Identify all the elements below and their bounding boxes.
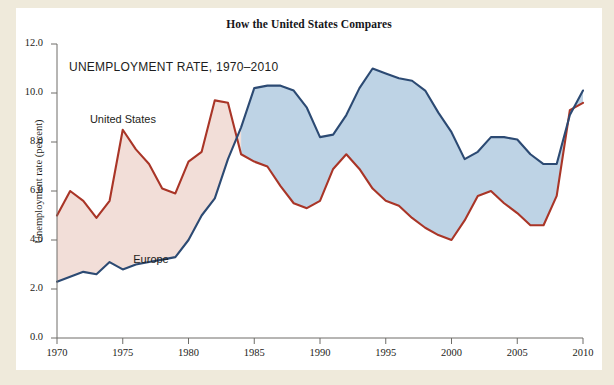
x-tick-label: 1990	[300, 347, 340, 358]
x-tick-label: 2010	[563, 347, 603, 358]
chart-panel: How the United States Compares UNEMPLOYM…	[16, 8, 602, 370]
x-tick-label: 1985	[234, 347, 274, 358]
x-tick-label: 1970	[37, 347, 77, 358]
y-tick-label: 2.0	[9, 282, 43, 293]
series-label-united-states: United States	[90, 113, 156, 125]
x-tick-label: 2000	[432, 347, 472, 358]
x-tick-label: 1980	[169, 347, 209, 358]
x-tick-label: 1975	[103, 347, 143, 358]
y-tick-label: 4.0	[9, 233, 43, 244]
x-tick-label: 1995	[366, 347, 406, 358]
x-tick-label: 2005	[497, 347, 537, 358]
y-tick-label: 10.0	[9, 86, 43, 97]
y-tick-label: 6.0	[9, 184, 43, 195]
y-tick-label: 8.0	[9, 135, 43, 146]
fill-between-bands	[57, 69, 583, 282]
y-tick-label: 12.0	[9, 37, 43, 48]
y-tick-label: 0.0	[9, 331, 43, 342]
figure-page: How the United States Compares UNEMPLOYM…	[0, 0, 614, 385]
series-label-europe: Europe	[133, 253, 168, 265]
chart-plot-area	[16, 8, 602, 370]
